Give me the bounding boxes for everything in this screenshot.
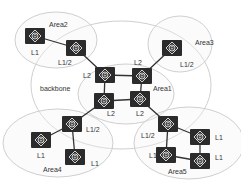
router-r9[interactable]: R: [31, 132, 51, 148]
router-r4[interactable]: R: [95, 67, 115, 83]
router-level-label-r7: L2: [136, 110, 144, 117]
router-level-label-r10: L1: [91, 160, 99, 167]
router-level-label-r6: L2: [107, 110, 115, 117]
router-r1[interactable]: R: [25, 28, 45, 44]
router-r3[interactable]: R: [162, 40, 182, 56]
router-r5[interactable]: R: [132, 68, 152, 84]
area-label-area2: Area2: [49, 21, 68, 28]
router-r6[interactable]: R: [94, 93, 114, 109]
router-level-label-r4: L2: [83, 72, 91, 79]
area-label-area5: Area5: [168, 168, 187, 175]
area-label-area4: Area4: [43, 166, 62, 173]
router-level-label-r2: L1/2: [58, 59, 72, 66]
router-level-label-r5: L2: [134, 59, 142, 66]
area-label-backbone: backbone: [40, 85, 70, 92]
router-level-label-r11: L1/2: [141, 132, 155, 139]
router-r13[interactable]: R: [156, 147, 176, 163]
router-level-label-r3: L1/2: [180, 61, 194, 68]
network-topology-diagram: RRRRRRRRRRRRRR backboneArea1Area2Area3Ar…: [0, 0, 241, 189]
router-r12[interactable]: R: [190, 129, 210, 145]
router-level-label-r9: L1: [37, 152, 45, 159]
router-r8[interactable]: R: [62, 116, 82, 132]
area-area5: [134, 107, 241, 179]
router-r7[interactable]: R: [130, 91, 150, 107]
router-level-label-r14: L1: [215, 154, 223, 161]
router-level-label-r8: L1/2: [86, 126, 100, 133]
router-r11[interactable]: R: [158, 116, 178, 132]
router-level-label-r1: L1: [31, 49, 39, 56]
router-r2[interactable]: R: [66, 40, 86, 56]
area-label-area1: Area1: [153, 85, 172, 92]
router-level-label-r13: L1: [149, 152, 157, 159]
router-r10[interactable]: R: [65, 149, 85, 165]
area-label-area3: Area3: [195, 39, 214, 46]
router-level-label-r12: L1: [215, 134, 223, 141]
router-r14[interactable]: R: [190, 153, 210, 169]
